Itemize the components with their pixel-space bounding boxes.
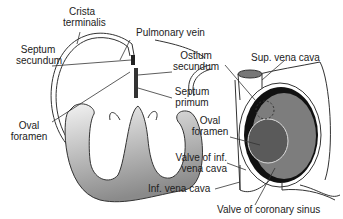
label-crista-terminalis: Crista terminalis [63,6,101,28]
oval-foramen-shape [248,119,288,163]
label-inf-vena-cava: Inf. vena cava [148,183,210,194]
label-ostium-secundum: Ostium secundum [172,50,220,72]
septum-secundum [131,55,135,65]
label-sup-vena-cava: Sup. vena cava [251,52,320,63]
label-septum-primum: Septum primum [173,86,211,108]
label-pulmonary-vein: Pulmonary vein [136,27,205,38]
right-heart [235,62,340,200]
label-valve-coronary-sinus: Valve of coronary sinus [217,204,320,215]
label-oval-foramen-right: Oval foramen [190,115,230,137]
label-septum-secundum: Septum secundum [16,44,60,66]
septum-primum [134,68,138,98]
label-oval-foramen-left: Oval foramen [8,120,50,142]
label-valve-inf-vena-cava: Valve of inf. vena cava [165,152,227,174]
